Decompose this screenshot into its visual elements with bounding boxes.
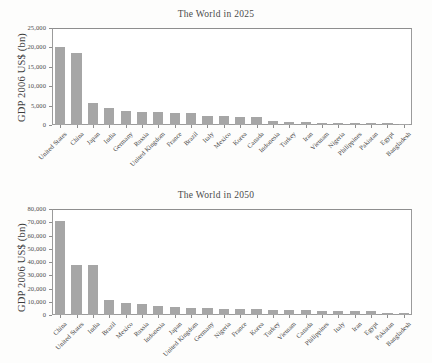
x-tick-mark: [207, 125, 208, 128]
x-tick-mark: [273, 125, 274, 128]
x-tick-mark: [306, 315, 307, 318]
bar: [55, 47, 65, 125]
x-tick-mark: [289, 315, 290, 318]
y-tick-label: 80,000: [0, 205, 46, 212]
x-tick-mark: [371, 315, 372, 318]
x-tick-label: China: [68, 130, 84, 146]
x-tick-mark: [158, 315, 159, 318]
x-tick-mark: [404, 125, 405, 128]
x-tick-label: Brazil: [182, 130, 199, 147]
x-tick-mark: [142, 125, 143, 128]
bar: [121, 111, 131, 125]
x-tick-mark: [93, 125, 94, 128]
y-tick-label: 10,000: [0, 298, 46, 305]
bar: [219, 116, 229, 125]
x-tick-mark: [142, 315, 143, 318]
x-tick-mark: [257, 125, 258, 128]
x-tick-mark: [207, 315, 208, 318]
y-tick-mark: [49, 249, 52, 250]
figure-canvas: The World in 2025 GDP 2006 US$ (bn) 05,0…: [0, 0, 432, 363]
x-tick-label: Nigeria: [212, 320, 231, 339]
bar: [88, 265, 98, 315]
x-tick-label: Mexico: [114, 320, 134, 340]
x-tick-mark: [257, 315, 258, 318]
y-tick-label: 60,000: [0, 232, 46, 239]
y-tick-mark: [49, 67, 52, 68]
x-tick-mark: [191, 315, 192, 318]
x-tick-mark: [273, 315, 274, 318]
x-tick-mark: [371, 125, 372, 128]
y-tick-mark: [49, 86, 52, 87]
bar: [104, 300, 114, 315]
y-tick-mark: [49, 222, 52, 223]
y-tick-label: 40,000: [0, 258, 46, 265]
x-tick-label: France: [165, 130, 183, 148]
bar: [71, 53, 81, 125]
x-tick-mark: [322, 125, 323, 128]
bar: [186, 113, 196, 125]
chart-panel-2050: The World in 2050 GDP 2006 US$ (bn) 010,…: [0, 181, 432, 363]
bar: [170, 307, 180, 315]
x-tick-label: Japan: [85, 130, 101, 146]
x-tick-mark: [338, 315, 339, 318]
x-tick-mark: [77, 125, 78, 128]
chart-panel-2025: The World in 2025 GDP 2006 US$ (bn) 05,0…: [0, 0, 432, 181]
y-tick-mark: [49, 289, 52, 290]
x-tick-label: United States: [37, 130, 68, 161]
x-tick-mark: [240, 125, 241, 128]
y-tick-mark: [49, 275, 52, 276]
x-tick-label: India: [86, 320, 101, 335]
x-tick-mark: [109, 125, 110, 128]
x-tick-mark: [77, 315, 78, 318]
bar: [104, 108, 114, 125]
y-tick-label: 70,000: [0, 218, 46, 225]
x-tick-mark: [224, 125, 225, 128]
y-tick-mark: [49, 47, 52, 48]
y-tick-mark: [49, 236, 52, 237]
x-tick-mark: [224, 315, 225, 318]
y-tick-label: 20,000: [0, 43, 46, 50]
bar: [137, 112, 147, 125]
x-tick-label: France: [230, 320, 248, 338]
bar: [202, 116, 212, 125]
bar: [88, 103, 98, 125]
x-tick-mark: [355, 315, 356, 318]
y-tick-mark: [49, 28, 52, 29]
y-tick-label: 0: [0, 311, 46, 318]
x-tick-mark: [126, 125, 127, 128]
y-tick-label: 10,000: [0, 82, 46, 89]
x-tick-mark: [338, 125, 339, 128]
bar: [235, 117, 245, 125]
y-tick-mark: [49, 106, 52, 107]
y-tick-mark: [49, 262, 52, 263]
x-tick-mark: [93, 315, 94, 318]
x-tick-mark: [289, 125, 290, 128]
y-tick-label: 30,000: [0, 271, 46, 278]
x-tick-mark: [322, 315, 323, 318]
x-tick-mark: [175, 125, 176, 128]
chart-title-2050: The World in 2050: [0, 190, 432, 200]
y-tick-label: 50,000: [0, 245, 46, 252]
x-tick-mark: [387, 315, 388, 318]
x-tick-label: Turkey: [279, 130, 298, 149]
y-tick-label: 5,000: [0, 102, 46, 109]
bar: [71, 265, 81, 315]
chart-title-2025: The World in 2025: [0, 9, 432, 19]
y-tick-mark: [49, 302, 52, 303]
y-tick-mark: [49, 125, 52, 126]
y-tick-label: 25,000: [0, 24, 46, 31]
x-tick-mark: [109, 315, 110, 318]
bar: [137, 304, 147, 315]
y-tick-label: 20,000: [0, 285, 46, 292]
bar: [251, 117, 261, 125]
bar: [153, 306, 163, 315]
bar: [121, 303, 131, 315]
x-tick-mark: [60, 315, 61, 318]
x-tick-label: Iran: [301, 130, 314, 143]
x-tick-mark: [306, 125, 307, 128]
x-tick-mark: [175, 315, 176, 318]
bar: [202, 308, 212, 315]
x-tick-mark: [404, 315, 405, 318]
bar: [55, 221, 65, 315]
x-tick-label: Iran: [350, 320, 363, 333]
